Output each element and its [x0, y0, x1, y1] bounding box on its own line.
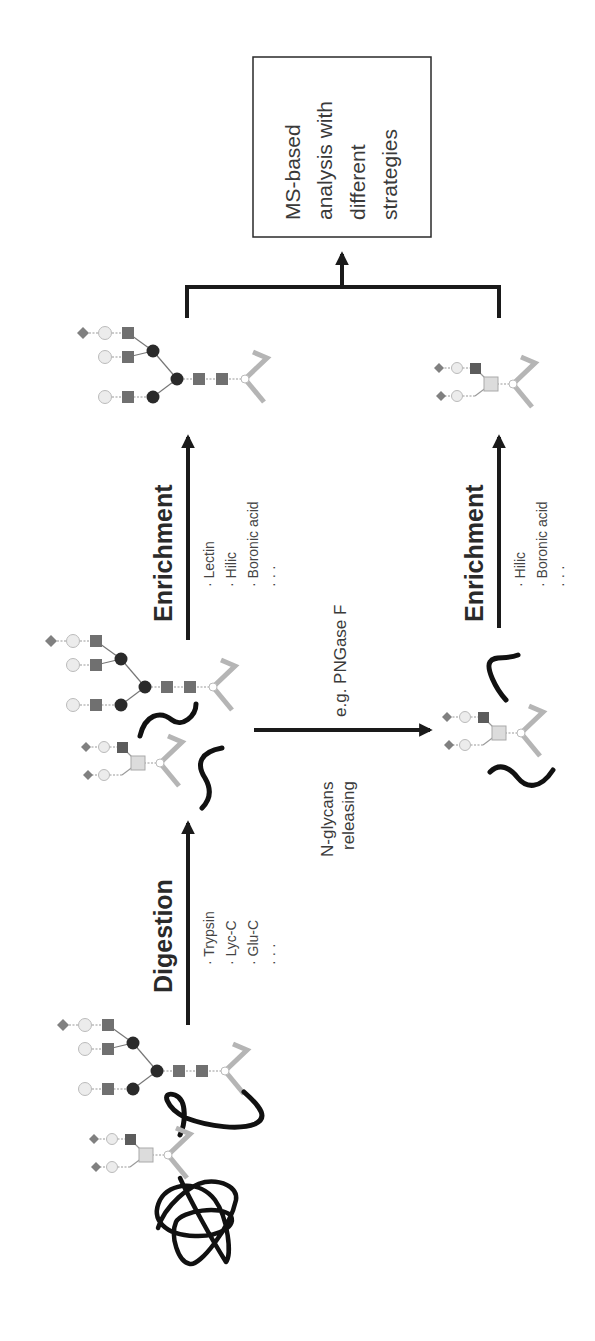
ms-analysis-box: MS-based analysis with different strateg… [253, 57, 431, 237]
enriched-glycopeptide-icon [77, 327, 267, 404]
glycoproteomics-workflow-diagram: Digestion · Trypsin · Lyc-C · Glu-C · · … [0, 0, 595, 1341]
released-glycan-icon [442, 706, 543, 756]
release-step: N-glycans releasing e.g. PNGase F [254, 605, 430, 857]
digestion-step: Digestion · Trypsin · Lyc-C · Glu-C · · … [149, 823, 281, 1025]
deglycosylated-peptide-icon [490, 767, 553, 786]
enrichment-item: · · · [554, 565, 570, 587]
enrichment-item: · Boronic acid [245, 501, 261, 587]
glycan-small-icon [81, 736, 182, 786]
folded-protein-icon [157, 1178, 236, 1264]
digestion-label: Digestion [149, 879, 177, 993]
enrichment-item: · Boronic acid [534, 501, 550, 587]
ms-box-line: strategies [378, 129, 401, 220]
enrichment-label: Enrichment [149, 484, 177, 622]
release-label: releasing [339, 781, 358, 850]
enrichment-item: · · · [265, 565, 281, 587]
glycan-complex-icon [45, 635, 235, 712]
enrichment-item: · Hilic [512, 552, 528, 587]
released-products [442, 655, 553, 785]
enrichment-label: Enrichment [460, 484, 488, 622]
enrichment-item: · Lectin [201, 541, 217, 587]
merge-bracket [187, 254, 499, 318]
digestion-item: · Lyc-C [223, 920, 239, 965]
release-label: N-glycans [318, 781, 337, 857]
release-enzyme-example: e.g. PNGase F [331, 605, 350, 717]
glycan-complex-icon [57, 1019, 247, 1096]
enrichment-step-glycan: Enrichment · Hilic · Boronic acid · · · [460, 437, 570, 628]
glycopeptides [45, 635, 235, 809]
ms-box-line: analysis with [313, 101, 336, 220]
enrichment-step-glycopeptide: Enrichment · Lectin · Hilic · Boronic ac… [149, 437, 281, 640]
glycan-small-icon [89, 1128, 190, 1178]
peptide-icon [140, 704, 196, 736]
digestion-item: · Trypsin [201, 911, 217, 965]
enrichment-item: · Hilic [223, 552, 239, 587]
digestion-item: · Glu-C [245, 920, 261, 965]
intact-glycoprotein [57, 1019, 262, 1265]
peptide-icon [201, 748, 222, 808]
deglycosylated-peptide-icon [489, 655, 518, 700]
enriched-glycan-icon [434, 357, 535, 407]
ms-box-line: different [346, 144, 369, 220]
digestion-item: · · · [265, 943, 281, 965]
ms-box-line: MS-based [281, 124, 304, 220]
